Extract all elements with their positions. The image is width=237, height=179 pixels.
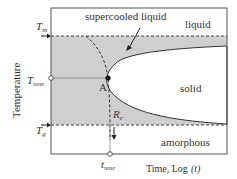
- label-liquid: liquid: [185, 18, 211, 30]
- label-a: A: [99, 81, 107, 93]
- label-tg: Tg: [36, 124, 46, 138]
- tnose-time-marker: [108, 152, 113, 157]
- label-solid: solid: [180, 82, 202, 94]
- label-amorphous: amorphous: [161, 136, 210, 148]
- label-t-nose: tnose: [101, 158, 115, 171]
- tnose-axis-marker: [49, 76, 54, 81]
- ttt-diagram: supercooled liquid liquid solid amorphou…: [0, 0, 237, 179]
- x-axis-label: Time, Log(t): [146, 163, 201, 175]
- y-axis-label: Temperature: [10, 62, 22, 118]
- tg-arrow-icon: [47, 123, 51, 128]
- tm-arrow-icon: [47, 34, 51, 39]
- nose-point-a: [105, 75, 110, 80]
- label-tm: Tm: [36, 20, 47, 34]
- label-tnose: Tnose: [27, 74, 44, 87]
- label-supercooled: supercooled liquid: [85, 10, 167, 22]
- arrow-head-icon: [112, 135, 117, 140]
